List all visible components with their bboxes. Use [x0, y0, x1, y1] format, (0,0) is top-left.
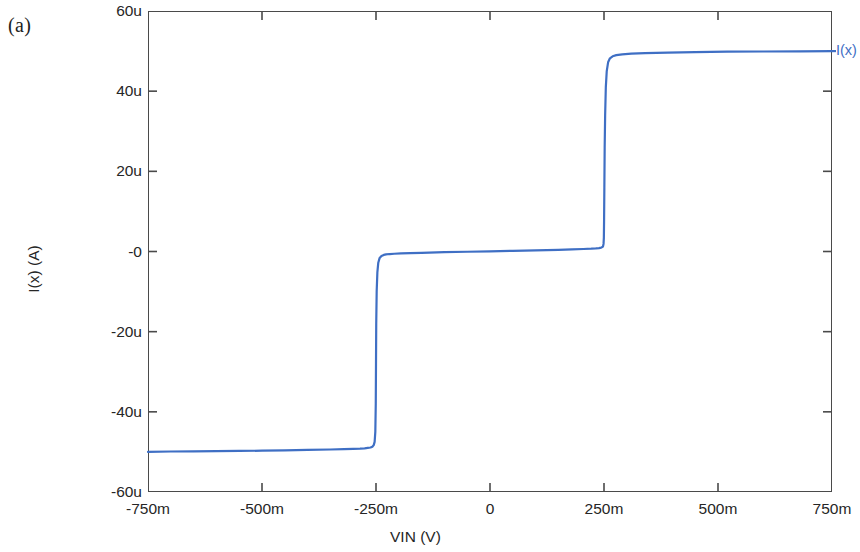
x-tick-label: 250m [549, 500, 659, 518]
y-axis-title-wrapper: I(x) (A) [14, 210, 54, 330]
x-tick-label: -500m [207, 500, 317, 518]
x-tick-label: -750m [93, 500, 203, 518]
figure-panel: (a) 60u40u20u-0-20u-40u-60u -750m-500m-2… [0, 0, 860, 552]
x-tick-label: -250m [321, 500, 431, 518]
x-tick-label: 750m [777, 500, 860, 518]
x-tick-label: 0 [435, 500, 545, 518]
x-tick-label: 500m [663, 500, 773, 518]
series-legend-label: I(x) [836, 42, 857, 58]
x-axis-title: VIN (V) [390, 528, 441, 546]
x-axis-tick-labels: -750m-500m-250m0250m500m750m [0, 0, 860, 552]
y-axis-title: I(x) (A) [25, 209, 43, 329]
